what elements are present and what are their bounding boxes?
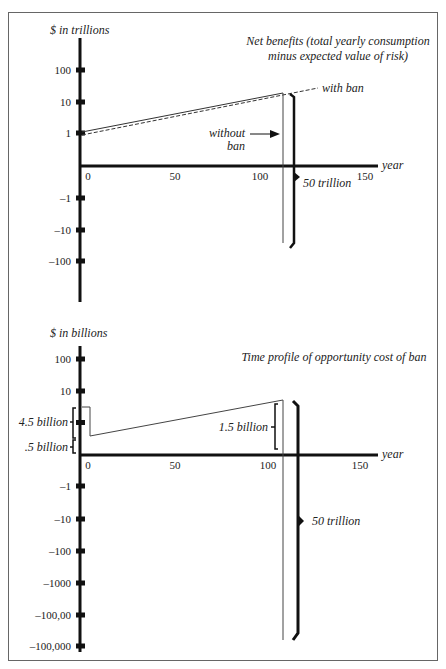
label-0-5-billion: .5 billion bbox=[25, 440, 68, 454]
lower-x-tick-label: 100 bbox=[260, 459, 277, 471]
upper-chart-title-line2: minus expected value of risk) bbox=[268, 49, 408, 63]
lower-x-ticks: 050100150 bbox=[85, 459, 369, 471]
lower-x-tick-label: 150 bbox=[352, 459, 369, 471]
opportunity-cost-line bbox=[82, 400, 283, 640]
upper-y-tick-label: 1 bbox=[66, 127, 72, 139]
without-ban-line bbox=[82, 93, 283, 132]
upper-50-trillion-bracket bbox=[290, 94, 300, 248]
upper-x-tick-label: 50 bbox=[170, 170, 182, 182]
upper-y-axis-label: $ in trillions bbox=[50, 23, 110, 37]
upper-x-tick-label: 0 bbox=[85, 170, 91, 182]
figure: $ in trillions Net benefits (total yearl… bbox=[0, 0, 446, 669]
upper-y-tick-mark bbox=[76, 259, 85, 264]
upper-50-trillion-label: 50 trillion bbox=[303, 176, 351, 190]
upper-x-tick-label: 100 bbox=[252, 170, 269, 182]
lower-y-tick-label: 10 bbox=[60, 385, 72, 397]
lower-y-tick-mark bbox=[76, 644, 85, 649]
upper-y-tick-label: 100 bbox=[55, 64, 72, 76]
lower-y-tick-label: –100,000 bbox=[29, 640, 72, 652]
lower-y-tick-mark bbox=[76, 484, 85, 489]
lower-50-trillion-bracket bbox=[293, 401, 304, 640]
brace-4-5-billion bbox=[70, 408, 76, 438]
upper-y-tick-label: –1 bbox=[59, 192, 71, 204]
lower-y-ticks: 10010–1–10–100–1000–100,00–100,000 bbox=[29, 353, 85, 652]
lower-y-tick-label: 100 bbox=[55, 353, 72, 365]
upper-y-tick-mark bbox=[76, 100, 85, 105]
lower-y-tick-mark bbox=[76, 389, 85, 394]
label-1-5-billion: 1.5 billion bbox=[219, 420, 268, 434]
lower-y-tick-label: –100 bbox=[48, 545, 72, 557]
lower-y-tick-mark bbox=[76, 581, 85, 586]
without-ban-label-line2: ban bbox=[227, 139, 245, 153]
lower-y-axis-label: $ in billions bbox=[50, 326, 108, 340]
upper-y-tick-mark bbox=[76, 228, 85, 233]
upper-y-tick-mark bbox=[76, 68, 85, 73]
with-ban-label: with ban bbox=[322, 81, 364, 95]
lower-y-tick-label: –1000 bbox=[43, 577, 72, 589]
lower-y-tick-mark bbox=[76, 613, 85, 618]
tick-4-5-billion bbox=[76, 420, 85, 425]
upper-y-tick-label: –10 bbox=[54, 224, 72, 236]
lower-y-tick-mark bbox=[76, 357, 85, 362]
lower-y-tick-label: –10 bbox=[54, 513, 72, 525]
lower-50-trillion-label: 50 trillion bbox=[312, 514, 360, 528]
lower-x-tick-label: 0 bbox=[85, 459, 91, 471]
lower-chart-title: Time profile of opportunity cost of ban bbox=[242, 350, 427, 364]
upper-y-tick-mark bbox=[76, 196, 85, 201]
upper-y-tick-label: –100 bbox=[48, 255, 72, 267]
upper-x-axis-label: year bbox=[381, 158, 404, 172]
lower-x-tick-label: 50 bbox=[170, 459, 182, 471]
upper-y-tick-label: 10 bbox=[60, 96, 72, 108]
lower-y-tick-label: –1 bbox=[59, 480, 71, 492]
lower-x-axis-label: year bbox=[381, 447, 404, 461]
brace-1-5-billion bbox=[271, 404, 278, 449]
lower-chart: $ in billions Time profile of opportunit… bbox=[19, 326, 427, 652]
lower-y-tick-mark bbox=[76, 517, 85, 522]
lower-y-tick-mark bbox=[76, 549, 85, 554]
upper-chart-title-line1: Net benefits (total yearly consumption bbox=[245, 34, 429, 48]
upper-x-tick-label: 150 bbox=[357, 170, 374, 182]
brace-0-5-billion bbox=[70, 440, 76, 453]
label-4-5-billion: 4.5 billion bbox=[19, 415, 68, 429]
without-ban-label-line1: without bbox=[209, 126, 246, 140]
arrow-right-icon bbox=[250, 130, 280, 138]
lower-y-tick-label: –100,00 bbox=[34, 609, 71, 621]
upper-chart: $ in trillions Net benefits (total yearl… bbox=[48, 23, 430, 302]
